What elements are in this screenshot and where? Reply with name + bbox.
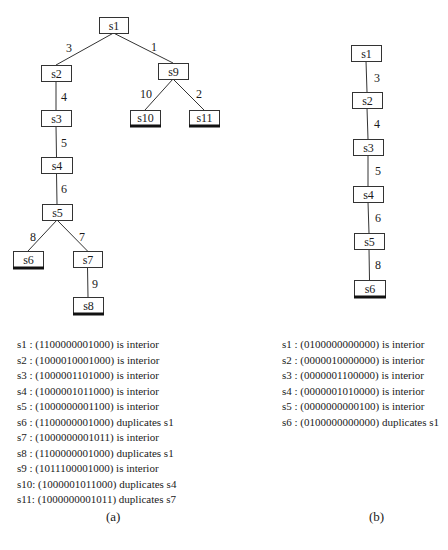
edge-s5-s6 <box>369 249 370 280</box>
node-label: s7 <box>83 253 94 267</box>
state-tree-diagram: 31102456879 s1s2s9s10s11s3s4s5s6s7s8 345… <box>0 0 448 330</box>
node-label: s2 <box>51 67 62 81</box>
state-node-s1: s1 <box>100 18 129 34</box>
state-entry-s4: s4 : (1000001011000) is interior <box>17 384 176 400</box>
node-label: s1 <box>361 47 372 61</box>
state-node-s10: s10 <box>130 111 161 127</box>
edge-weight-label: 2 <box>196 87 202 101</box>
state-entry-s10: s10: (1000001011000) duplicates s4 <box>17 477 176 493</box>
state-node-s6: s6 <box>13 252 44 269</box>
state-entry-s11: s11: (1000000001011) duplicates s7 <box>17 492 176 508</box>
state-node-s6: s6 <box>354 281 386 298</box>
node-label: s5 <box>52 206 63 220</box>
caption-b: (b) <box>369 509 384 525</box>
tree-a-nodes: s1s2s9s10s11s3s4s5s6s7s8 <box>13 18 220 315</box>
node-label: s1 <box>109 19 120 33</box>
node-label: s2 <box>362 94 373 108</box>
edge-s4-s5 <box>368 202 369 233</box>
node-label: s10 <box>137 111 154 125</box>
edge-weight-label: 4 <box>374 117 380 131</box>
state-entry-s1: s1 : (0100000000000) is interior <box>282 337 439 353</box>
state-entry-s5: s5 : (0000000000100) is interior <box>282 399 439 415</box>
state-node-s3: s3 <box>354 140 384 156</box>
edge-weight-label: 6 <box>61 182 67 196</box>
edge-weight-label: 9 <box>92 277 98 291</box>
edge-weight-label: 8 <box>375 258 381 272</box>
state-entry-s2: s2 : (1000010001000) is interior <box>17 353 176 369</box>
state-entry-s6: s6 : (1100000001000) duplicates s1 <box>17 415 176 431</box>
node-label: s6 <box>23 253 34 267</box>
edge-weight-label: 3 <box>374 71 380 85</box>
state-entry-s5: s5 : (1000000001100) is interior <box>17 399 176 415</box>
state-node-s1: s1 <box>352 46 382 62</box>
state-entry-s3: s3 : (1000001101000) is interior <box>17 368 176 384</box>
state-entry-s8: s8 : (1100000001000) duplicates s1 <box>17 446 176 462</box>
state-node-s5: s5 <box>355 234 385 250</box>
edge-s1-s2 <box>366 61 367 92</box>
edge-s1-s2 <box>56 33 114 65</box>
state-node-s4: s4 <box>42 158 73 174</box>
edge-weight-label: 10 <box>140 87 152 101</box>
node-label: s4 <box>52 159 63 173</box>
edge-weight-label: 7 <box>79 230 85 244</box>
node-label: s8 <box>83 299 94 313</box>
state-entry-s1: s1 : (1100000001000) is interior <box>17 337 176 353</box>
node-label: s4 <box>363 188 374 202</box>
state-node-s7: s7 <box>74 252 103 268</box>
state-list-a: s1 : (1100000001000) is interiors2 : (10… <box>17 337 176 508</box>
state-entry-s2: s2 : (0000010000000) is interior <box>282 353 439 369</box>
edge-weight-label: 5 <box>375 164 381 178</box>
state-node-s8: s8 <box>73 298 104 315</box>
edge-weight-label: 1 <box>151 40 157 54</box>
node-label: s3 <box>363 141 374 155</box>
edge-s7-s8 <box>88 267 89 297</box>
state-node-s9: s9 <box>159 64 189 80</box>
node-label: s6 <box>365 282 376 296</box>
edge-s1-s9 <box>114 33 174 63</box>
state-node-s2: s2 <box>42 66 72 82</box>
state-entry-s9: s9 : (1011100001000) is interior <box>17 461 176 477</box>
caption-a: (a) <box>106 509 120 525</box>
node-label: s5 <box>364 235 375 249</box>
edge-s4-s5 <box>57 173 58 204</box>
node-label: s3 <box>51 112 62 126</box>
state-node-s4: s4 <box>354 187 384 203</box>
node-label: s9 <box>168 65 179 79</box>
edge-s3-s4 <box>56 126 57 157</box>
edge-weight-label: 6 <box>375 211 381 225</box>
state-entry-s7: s7 : (1000000001011) is interior <box>17 430 176 446</box>
state-node-s3: s3 <box>42 111 72 127</box>
state-entry-s3: s3 : (0000001100000) is interior <box>282 368 439 384</box>
state-node-s2: s2 <box>353 93 383 109</box>
state-node-s11: s11 <box>189 111 220 127</box>
state-list-b: s1 : (0100000000000) is interiors2 : (00… <box>282 337 439 430</box>
edge-weight-label: 5 <box>61 136 67 150</box>
node-label: s11 <box>196 111 212 125</box>
state-entry-s6: s6 : (0100000000000) duplicates s1 <box>282 415 439 431</box>
edge-weight-label: 3 <box>66 41 72 55</box>
edge-s2-s3 <box>367 108 368 139</box>
state-node-s5: s5 <box>43 205 73 221</box>
edge-weight-label: 4 <box>61 90 67 104</box>
state-entry-s4: s4 : (0000001010000) is interior <box>282 384 439 400</box>
edge-weight-label: 8 <box>30 230 36 244</box>
